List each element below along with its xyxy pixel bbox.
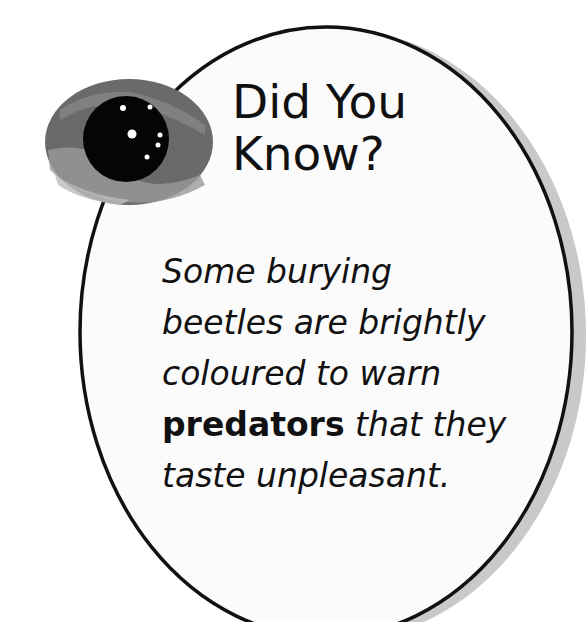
fact-line-1: Some burying <box>162 246 506 297</box>
fact-text: Some burying beetles are brightly colour… <box>162 246 506 501</box>
eye-icon <box>45 79 213 205</box>
fact-line-2: beetles are brightly <box>162 297 506 348</box>
fact-line-5: taste unpleasant. <box>162 450 506 501</box>
title-line-2: Know? <box>232 128 407 180</box>
fact-line-3: coloured to warn <box>162 348 506 399</box>
keyword-predators: predators <box>162 405 345 444</box>
fact-line-4: predators that they <box>162 399 506 450</box>
fact-line-4-rest: that they <box>345 405 507 444</box>
title-line-1: Did You <box>232 76 407 128</box>
card-title: Did You Know? <box>232 76 407 180</box>
